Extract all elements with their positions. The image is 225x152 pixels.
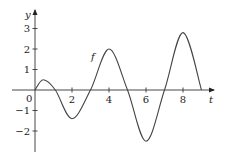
x-tick-label: 6 [143, 94, 149, 105]
function-graph: 2468−2−1123 f t y 0 [0, 0, 225, 152]
axes [12, 10, 214, 152]
x-axis-label: t [209, 94, 214, 105]
curve-label-f: f [90, 51, 97, 62]
y-axis-label: y [24, 9, 31, 20]
y-tick-label: 3 [24, 23, 30, 34]
y-tick-label: 1 [24, 64, 30, 75]
axis-ticks: 2468−2−1123 [15, 23, 186, 137]
x-tick-label: 4 [106, 94, 112, 105]
curve-f [35, 33, 202, 142]
origin-label: 0 [26, 93, 32, 104]
y-tick-label: −2 [15, 126, 30, 137]
x-tick-label: 8 [180, 94, 186, 105]
y-tick-label: −1 [15, 105, 30, 116]
x-tick-label: 2 [69, 94, 75, 105]
y-tick-label: 2 [24, 44, 30, 55]
